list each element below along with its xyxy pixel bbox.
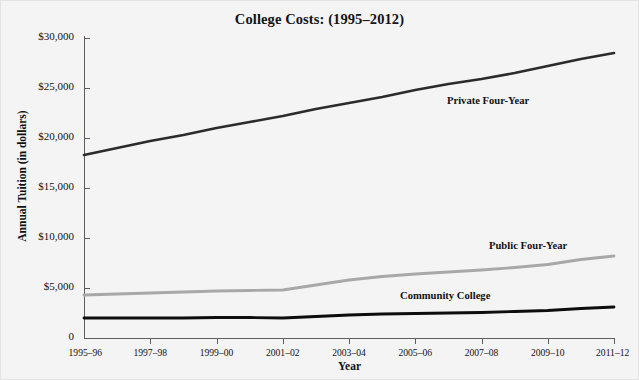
series-line	[84, 53, 614, 155]
series-label: Private Four-Year	[447, 95, 529, 106]
series-label: Community College	[400, 290, 490, 301]
series-label: Public Four-Year	[489, 240, 567, 251]
series-lines	[0, 0, 639, 380]
series-line	[84, 307, 614, 318]
chart-figure: College Costs: (1995–2012) 0$5,000$10,00…	[0, 0, 639, 380]
series-line	[84, 256, 614, 295]
